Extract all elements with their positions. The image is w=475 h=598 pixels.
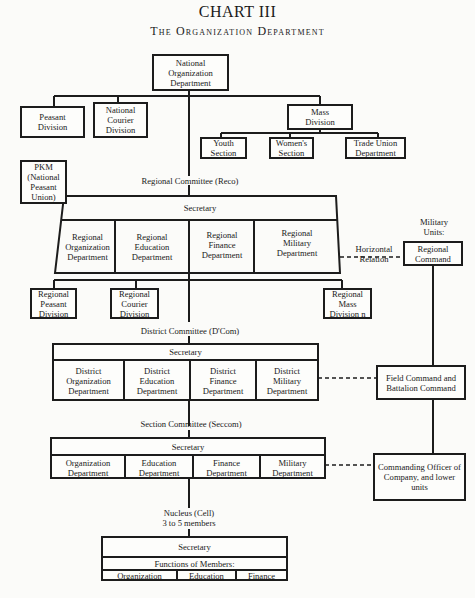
company-commanding-officer-box: Commanding Officer of Company, and lower… xyxy=(373,453,466,501)
district-finance-department: District Finance Department xyxy=(191,361,257,401)
section-departments-row: Organization Department Education Depart… xyxy=(52,456,324,479)
section-finance-department: Finance Department xyxy=(194,456,261,479)
national-organization-department-box: National Organization Department xyxy=(152,54,229,91)
peasant-division-label: Peasant Division xyxy=(32,112,73,132)
horizontal-relation-label: Horizontal Relation xyxy=(345,244,403,264)
section-secretary: Secretary xyxy=(52,439,324,456)
field-command-label: Field Command and Battalion Command xyxy=(380,373,462,393)
cell-functions-label: Functions of Members: xyxy=(103,558,286,571)
district-secretary: Secretary xyxy=(54,345,317,361)
district-committee-box: Secretary District Organization Departme… xyxy=(52,343,319,401)
cell-box: Secretary Functions of Members: Organiza… xyxy=(101,536,288,581)
district-education-department: District Education Department xyxy=(125,361,191,401)
womens-section-label: Women's Section xyxy=(275,138,308,158)
section-military-department: Military Department xyxy=(261,456,324,479)
section-education-department: Education Department xyxy=(126,456,194,479)
youth-section-box: Youth Section xyxy=(200,137,247,159)
military-units-header: Military Units: xyxy=(408,217,460,237)
regional-education-department: Regional Education Department xyxy=(117,232,187,262)
regional-organization-department: Regional Organization Department xyxy=(60,232,115,262)
pkm-label: PKM (National Peasant Union) xyxy=(25,162,62,202)
cell-function-education: Education xyxy=(178,571,237,581)
regional-command-box: Regional Command xyxy=(403,241,463,266)
trade-union-department-label: Trade Union Department xyxy=(351,138,400,158)
cell-function-finance: Finance xyxy=(237,571,286,581)
regional-committee-label: Regional Committee (Reco) xyxy=(138,176,242,186)
section-organization-department: Organization Department xyxy=(52,456,126,479)
field-battalion-command-box: Field Command and Battalion Command xyxy=(376,365,466,400)
district-organization-department: District Organization Department xyxy=(54,361,125,401)
nucleus-cell-label: Nucleus (Cell) xyxy=(139,508,239,518)
section-committee-box: Secretary Organization Department Educat… xyxy=(50,437,326,479)
section-committee-label: Section Committee (Seccom) xyxy=(132,419,250,429)
cell-functions-row: Organization Education Finance xyxy=(103,571,286,581)
cell-secretary: Secretary xyxy=(103,538,286,558)
cell-function-organization: Organization xyxy=(103,571,178,581)
regional-command-label: Regional Command xyxy=(411,244,455,264)
regional-courier-division-label: Regional Courier Division xyxy=(116,289,153,319)
chart-subtitle: The Organization Department xyxy=(0,24,475,39)
youth-section-label: Youth Section xyxy=(208,138,239,158)
regional-secretary-label: Secretary xyxy=(64,203,336,213)
national-organization-department-label: National Organization Department xyxy=(158,58,223,88)
mass-division-label: Mass Division xyxy=(303,107,337,127)
regional-mass-division-label: Regional Mass Division n xyxy=(329,289,366,319)
regional-mass-division-box: Regional Mass Division n xyxy=(323,288,372,319)
regional-military-department: Regional Military Department xyxy=(256,228,338,258)
pkm-national-peasant-union-box: PKM (National Peasant Union) xyxy=(20,160,67,204)
national-courier-division-label: National Courier Division xyxy=(101,105,140,135)
trade-union-department-box: Trade Union Department xyxy=(345,137,406,159)
district-departments-row: District Organization Department Distric… xyxy=(54,361,317,401)
womens-section-box: Women's Section xyxy=(269,137,314,159)
regional-courier-division-box: Regional Courier Division xyxy=(110,288,159,319)
regional-finance-department: Regional Finance Department xyxy=(191,230,253,260)
national-courier-division-box: National Courier Division xyxy=(93,102,148,138)
district-military-department: District Military Department xyxy=(257,361,317,401)
cell-members-count: 3 to 5 members xyxy=(139,518,239,528)
regional-peasant-division-box: Regional Peasant Division xyxy=(30,288,77,319)
district-committee-label: District Committee (D'Com) xyxy=(131,326,249,336)
company-commanding-officer-label: Commanding Officer of Company, and lower… xyxy=(378,462,461,492)
mass-division-box: Mass Division xyxy=(287,104,353,130)
regional-peasant-division-label: Regional Peasant Division xyxy=(36,289,71,319)
chart-title: CHART III xyxy=(0,3,475,21)
peasant-division-box: Peasant Division xyxy=(20,106,85,138)
